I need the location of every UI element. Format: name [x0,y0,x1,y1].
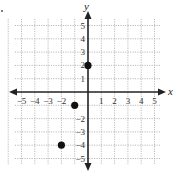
x-tick-label: −5 [17,96,27,106]
data-point [71,102,78,109]
y-tick-label: 2 [81,60,86,70]
data-point [58,142,65,149]
y-tick-label: −4 [75,140,85,150]
y-axis-up-arrow-icon [85,11,92,19]
data-point [84,62,91,69]
y-axis-label: y [83,0,89,12]
y-tick-label: 5 [81,21,86,31]
x-tick-label: −3 [43,96,53,106]
y-tick-label: −5 [75,154,85,164]
x-axis-right-arrow-icon [158,89,166,96]
x-tick-label: 5 [152,96,157,106]
x-tick-label: 1 [99,96,104,106]
stray-mark [1,10,3,12]
x-tick-label: −4 [30,96,40,106]
y-tick-label: 1 [81,74,86,84]
y-axis-down-arrow-icon [85,163,92,171]
x-tick-label: −2 [57,96,67,106]
x-axis-left-arrow-icon [9,89,17,96]
x-tick-label: 4 [139,96,144,106]
coordinate-plane: −5−4−3−21234554321−2−3−4−5 x y [0,0,176,174]
axes [9,11,166,171]
y-tick-label: 3 [81,47,86,57]
x-tick-label: 2 [112,96,117,106]
x-axis-label: x [167,85,173,97]
y-tick-label: 4 [81,34,86,44]
y-tick-label: −2 [75,114,85,124]
y-tick-label: −3 [75,127,85,137]
x-tick-label: 3 [126,96,131,106]
